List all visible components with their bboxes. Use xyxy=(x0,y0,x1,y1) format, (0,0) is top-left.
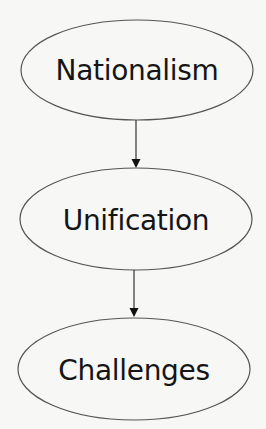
arrowhead-down-icon xyxy=(130,308,139,317)
node-label-unification: Unification xyxy=(63,204,210,237)
flowchart-diagram: Nationalism Unification Challenges xyxy=(0,0,266,429)
node-label-challenges: Challenges xyxy=(58,354,210,387)
node-nationalism: Nationalism xyxy=(21,20,253,120)
node-challenges: Challenges xyxy=(18,318,250,420)
arrowhead-down-icon xyxy=(132,159,141,168)
node-unification: Unification xyxy=(20,168,252,270)
node-label-nationalism: Nationalism xyxy=(55,54,218,87)
edge-unification-to-challenges xyxy=(130,270,139,317)
edge-nationalism-to-unification xyxy=(132,120,141,168)
